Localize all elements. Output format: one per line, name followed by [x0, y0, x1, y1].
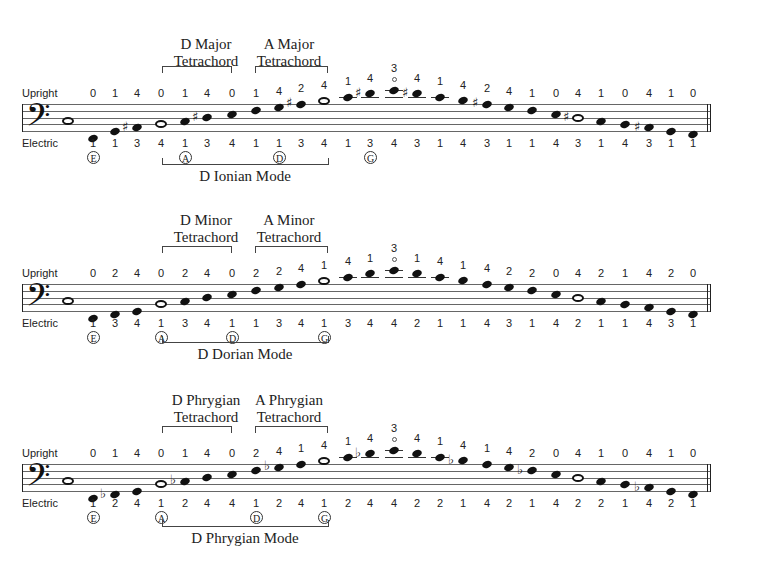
upright-fingering: 1	[664, 447, 678, 459]
upright-fingering: 1	[410, 252, 424, 264]
upright-fingering: 4	[200, 447, 214, 459]
upright-fingering: 4	[130, 447, 144, 459]
upright-fingering: 1	[525, 87, 539, 99]
whole-note	[572, 114, 584, 122]
upright-fingering: 2	[294, 82, 308, 94]
tetrachord-2-title: A MajorTetrachord	[229, 36, 349, 70]
string-e-marker: E	[87, 331, 100, 344]
upright-fingering: 2	[525, 447, 539, 459]
upright-fingering: 4	[272, 85, 286, 97]
electric-fingering: 4	[387, 317, 401, 329]
upright-fingering: 4	[294, 262, 308, 274]
upright-fingering: 4	[363, 432, 377, 444]
electric-fingering: 1	[433, 317, 447, 329]
upright-fingering: 4	[642, 447, 656, 459]
electric-fingering: 4	[130, 497, 144, 509]
upright-fingering: 0	[618, 447, 632, 459]
upright-fingering: 1	[108, 447, 122, 459]
upright-fingering: 4	[433, 255, 447, 267]
sharp-icon: ♯	[402, 86, 408, 99]
electric-fingering: 1	[456, 317, 470, 329]
electric-fingering: 1	[249, 317, 263, 329]
end-barline-thin	[707, 464, 708, 492]
electric-fingering: 3	[178, 317, 192, 329]
harmonic-icon	[392, 77, 397, 82]
electric-fingering: 4	[387, 137, 401, 149]
upright-fingering: 1	[594, 87, 608, 99]
note-head	[526, 106, 538, 116]
start-barline	[22, 464, 23, 492]
upright-fingering: 0	[549, 447, 563, 459]
electric-fingering: 4	[294, 497, 308, 509]
electric-fingering: 3	[480, 137, 494, 149]
tetrachord-2-bracket	[255, 66, 328, 73]
whole-note	[62, 297, 74, 305]
upright-fingering: 2	[249, 447, 263, 459]
upright-fingering: 1	[249, 87, 263, 99]
upright-fingering: 4	[317, 79, 331, 91]
note-head	[201, 472, 213, 482]
upright-fingering: 0	[154, 447, 168, 459]
upright-fingering: 1	[108, 87, 122, 99]
ledger-line	[385, 97, 403, 98]
harmonic-icon	[392, 437, 397, 442]
electric-fingering: 4	[618, 137, 632, 149]
upright-fingering: 4	[200, 267, 214, 279]
note-head	[481, 279, 493, 289]
string-e-marker: E	[87, 511, 100, 524]
electric-fingering: 2	[272, 497, 286, 509]
tetrachord-1-bracket	[162, 246, 232, 253]
electric-fingering: 4	[130, 317, 144, 329]
upright-fingering: 3	[387, 242, 401, 254]
upright-fingering: 4	[571, 267, 585, 279]
upright-fingering: 4	[341, 255, 355, 267]
whole-note	[62, 117, 74, 125]
upright-fingering: 1	[294, 442, 308, 454]
flat-icon: ♭	[634, 480, 640, 493]
mode-title: D Phrygian Mode	[135, 530, 355, 547]
electric-fingering: 4	[363, 497, 377, 509]
electric-fingering: 3	[108, 317, 122, 329]
electric-fingering: 2	[594, 497, 608, 509]
mode-bracket	[162, 520, 329, 527]
note-head	[250, 286, 262, 296]
flat-icon: ♭	[170, 473, 176, 486]
electric-fingering: 4	[456, 137, 470, 149]
upright-fingering: 4	[456, 79, 470, 91]
tetrachord-2-bracket	[255, 426, 328, 433]
staff-line	[22, 104, 710, 105]
upright-fingering: 1	[178, 447, 192, 459]
upright-fingering: 1	[433, 75, 447, 87]
ledger-line	[385, 277, 403, 278]
staff-line	[22, 111, 710, 112]
ledger-line	[408, 277, 426, 278]
note-head	[434, 272, 446, 282]
upright-fingering: 4	[410, 432, 424, 444]
upright-fingering: 4	[502, 445, 516, 457]
electric-fingering: 4	[480, 317, 494, 329]
upright-fingering: 0	[225, 447, 239, 459]
electric-fingering: 1	[154, 497, 168, 509]
upright-fingering: 0	[618, 87, 632, 99]
note-head	[388, 85, 400, 95]
note-head	[481, 459, 493, 469]
electric-fingering: 2	[178, 497, 192, 509]
ledger-line	[408, 97, 426, 98]
sharp-icon: ♯	[634, 120, 640, 133]
electric-fingering: 4	[154, 137, 168, 149]
note-head	[342, 92, 354, 102]
upright-fingering: 2	[664, 267, 678, 279]
electric-fingering: 4	[294, 317, 308, 329]
upright-fingering: 1	[341, 75, 355, 87]
flat-icon: ♭	[355, 446, 361, 459]
electric-fingering: 4	[480, 497, 494, 509]
upright-fingering: 1	[433, 435, 447, 447]
sharp-icon: ♯	[355, 86, 361, 99]
upright-fingering: 3	[387, 62, 401, 74]
electric-fingering: 1	[341, 137, 355, 149]
electric-fingering: 1	[249, 497, 263, 509]
whole-note	[572, 474, 584, 482]
end-barline	[710, 284, 711, 312]
upright-fingering: 0	[86, 87, 100, 99]
note-head	[526, 466, 538, 476]
